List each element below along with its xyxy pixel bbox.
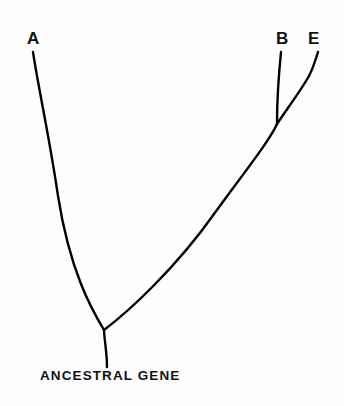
tip-label-b: B [276, 30, 289, 47]
phylogenetic-tree-figure: A B E ANCESTRAL GENE [0, 0, 344, 406]
figure-background [0, 0, 344, 406]
tip-label-a: A [27, 30, 40, 47]
root-label-ancestral-gene: ANCESTRAL GENE [40, 369, 180, 383]
tip-label-e: E [308, 30, 320, 47]
tree-drawing [0, 0, 344, 406]
